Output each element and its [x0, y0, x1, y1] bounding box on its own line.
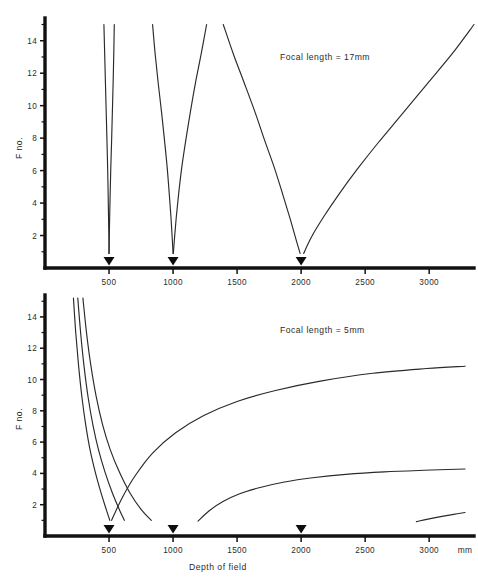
dof-curve	[78, 298, 125, 520]
annotation-focal-length-5mm: Focal length = 5mm	[280, 325, 365, 335]
axis-ticks-17mm	[40, 24, 429, 274]
chart-panel-5mm: 246810121450010001500200025003000 F no. …	[0, 291, 478, 583]
x-tick-label: 500	[102, 546, 117, 555]
x-tick-label: 1000	[163, 546, 183, 555]
focus-distance-marker	[104, 257, 115, 266]
focus-distance-marker	[296, 257, 307, 266]
y-tick-label: 6	[32, 438, 37, 447]
marker-group-5mm	[104, 525, 307, 534]
y-tick-label: 8	[32, 407, 37, 416]
x-axis-unit-label: mm	[458, 545, 473, 555]
y-tick-label: 14	[27, 37, 37, 46]
dof-curve	[104, 24, 109, 253]
dof-curve	[109, 24, 114, 253]
y-tick-label: 2	[32, 232, 37, 241]
x-tick-label: 1500	[227, 546, 247, 555]
dof-curve	[173, 24, 206, 253]
focus-distance-marker	[104, 525, 115, 534]
y-axis-title-17mm: F no.	[14, 137, 24, 159]
axis-ticks-5mm	[40, 301, 429, 542]
x-tick-label: 2500	[355, 278, 375, 287]
x-tick-label: 2000	[291, 278, 311, 287]
dof-curve	[73, 298, 109, 520]
x-tick-label: 1500	[227, 278, 247, 287]
dof-curve	[198, 469, 465, 521]
y-tick-label: 2	[32, 501, 37, 510]
y-tick-label: 12	[27, 69, 37, 78]
marker-group-17mm	[104, 257, 307, 266]
depth-of-field-figure: 246810121450010001500200025003000 F no. …	[0, 0, 478, 583]
dof-curve	[153, 24, 173, 253]
dof-curve	[416, 513, 465, 522]
x-tick-label: 2500	[355, 546, 375, 555]
dof-curve	[112, 366, 465, 520]
y-axis-title-5mm: F no.	[14, 408, 24, 430]
chart-panel-17mm: 246810121450010001500200025003000 F no. …	[0, 0, 478, 291]
annotation-focal-length-17mm: Focal length = 17mm	[280, 52, 370, 62]
y-tick-label: 12	[27, 344, 37, 353]
focus-distance-marker	[296, 525, 307, 534]
x-tick-label: 3000	[419, 546, 439, 555]
y-tick-label: 10	[27, 376, 37, 385]
chart-svg-17mm: 246810121450010001500200025003000 F no. …	[0, 0, 478, 291]
chart-svg-5mm: 246810121450010001500200025003000 F no. …	[0, 291, 478, 583]
y-tick-label: 10	[27, 102, 37, 111]
x-tick-label: 3000	[419, 278, 439, 287]
x-tick-label: 1000	[163, 278, 183, 287]
y-tick-label: 14	[27, 313, 37, 322]
y-tick-label: 4	[32, 199, 37, 208]
x-tick-label: 2000	[291, 546, 311, 555]
y-tick-label: 8	[32, 134, 37, 143]
dof-curve	[83, 298, 151, 520]
curve-group-5mm	[73, 298, 465, 521]
axis-labels-17mm: 246810121450010001500200025003000	[27, 37, 439, 287]
x-tick-label: 500	[102, 278, 117, 287]
focus-distance-marker	[168, 525, 179, 534]
focus-distance-marker	[168, 257, 179, 266]
y-tick-label: 4	[32, 469, 37, 478]
x-axis-title: Depth of field	[189, 562, 247, 572]
y-tick-label: 6	[32, 167, 37, 176]
